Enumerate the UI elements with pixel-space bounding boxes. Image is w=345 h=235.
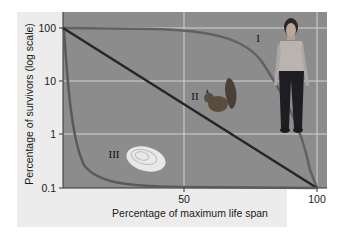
y-tick-0-1: 0.1 — [41, 182, 56, 194]
curve-II-label: II — [191, 90, 199, 102]
curve-I-label: I — [256, 32, 260, 44]
x-axis-label: Percentage of maximum life span — [112, 207, 268, 219]
x-tick-50: 50 — [178, 193, 190, 205]
y-tick-10: 10 — [44, 75, 56, 87]
curve-III-label: III — [109, 148, 120, 160]
y-tick-100: 100 — [38, 22, 56, 34]
survivorship-chart: 100 10 1 0.1 50 100 Percentage of maximu… — [0, 0, 345, 235]
y-tick-1: 1 — [50, 128, 56, 140]
x-tick-100: 100 — [308, 193, 326, 205]
y-axis-label: Percentage of survivors (log scale) — [23, 23, 35, 185]
